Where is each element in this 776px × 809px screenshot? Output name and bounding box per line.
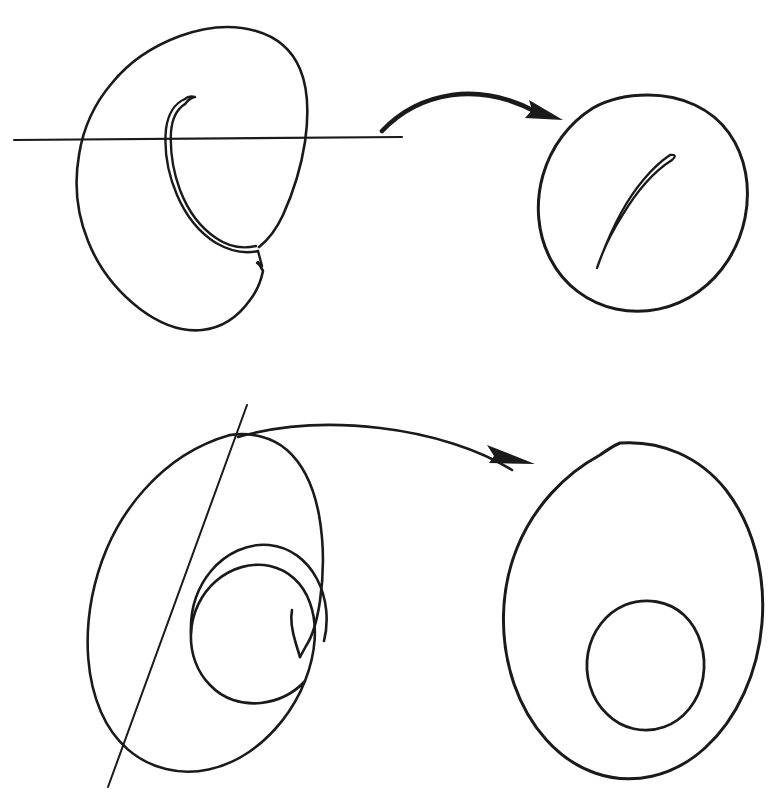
- diagonal-cut-line: [108, 405, 247, 787]
- disc-with-curved-slit: [538, 95, 747, 311]
- annulus-ellipse: [503, 443, 762, 779]
- spiral-disc-with-slit: [77, 27, 308, 330]
- figure-canvas: [0, 0, 776, 809]
- transform-arrow-top: [382, 94, 563, 131]
- bottom-row-group: [88, 405, 763, 787]
- figure-drawing: [0, 0, 776, 809]
- spiral-annulus: [88, 434, 327, 772]
- top-row-group: [14, 27, 747, 330]
- horizontal-cut-line: [14, 137, 402, 140]
